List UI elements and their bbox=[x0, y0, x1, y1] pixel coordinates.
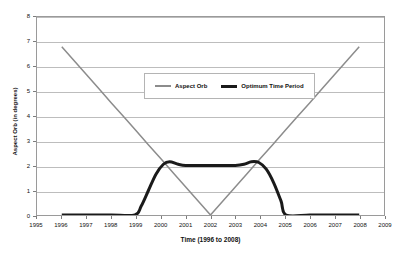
thin-gray-line-icon bbox=[155, 85, 171, 87]
x-tick-label: 2005 bbox=[279, 222, 292, 228]
x-tick-mark bbox=[211, 216, 212, 219]
chart-legend: Aspect Orb Optimum Time Period bbox=[144, 73, 315, 99]
legend-label-optimum-time-period: Optimum Time Period bbox=[241, 83, 303, 89]
x-tick-mark bbox=[335, 216, 336, 219]
plot-svg bbox=[37, 17, 384, 215]
y-tick-label: 2 bbox=[27, 163, 30, 169]
y-tick-label: 7 bbox=[27, 38, 30, 44]
x-tick-mark bbox=[61, 216, 62, 219]
y-tick-label: 0 bbox=[27, 213, 30, 219]
x-tick-label: 2007 bbox=[328, 222, 341, 228]
legend-label-aspect-orb: Aspect Orb bbox=[175, 83, 207, 89]
x-tick-label: 2001 bbox=[179, 222, 192, 228]
y-tick-label: 5 bbox=[27, 88, 30, 94]
x-tick-label: 1997 bbox=[79, 222, 92, 228]
chart-container: 012345678 Aspect Orb (in degrees) 199519… bbox=[0, 0, 414, 254]
x-tick-label: 1995 bbox=[29, 222, 42, 228]
y-axis-title: Aspect Orb (in degrees) bbox=[12, 47, 19, 197]
series-line-aspect-orb bbox=[62, 47, 359, 215]
y-tick-label: 4 bbox=[27, 113, 30, 119]
x-tick-mark bbox=[385, 216, 386, 219]
x-tick-mark bbox=[86, 216, 87, 219]
legend-entry-optimum-time-period: Optimum Time Period bbox=[221, 83, 303, 89]
x-tick-label: 1999 bbox=[129, 222, 142, 228]
y-tick-label: 1 bbox=[27, 188, 30, 194]
y-tick-label: 3 bbox=[27, 138, 30, 144]
x-tick-label: 2002 bbox=[204, 222, 217, 228]
x-tick-mark bbox=[161, 216, 162, 219]
x-tick-label: 2004 bbox=[254, 222, 267, 228]
legend-entry-aspect-orb: Aspect Orb bbox=[155, 83, 207, 89]
thick-black-line-icon bbox=[221, 85, 237, 88]
x-tick-mark bbox=[310, 216, 311, 219]
x-axis: 1995199619971998199920002001200220032004… bbox=[36, 216, 385, 234]
x-tick-label: 1998 bbox=[104, 222, 117, 228]
x-tick-label: 1996 bbox=[54, 222, 67, 228]
x-tick-label: 2008 bbox=[353, 222, 366, 228]
x-axis-title: Time (1996 to 2008) bbox=[36, 236, 385, 243]
x-tick-label: 2003 bbox=[229, 222, 242, 228]
series-line-optimum-time-period bbox=[62, 162, 359, 215]
x-tick-mark bbox=[186, 216, 187, 219]
x-tick-mark bbox=[235, 216, 236, 219]
plot-area bbox=[36, 16, 385, 216]
x-tick-mark bbox=[111, 216, 112, 219]
x-tick-label: 2006 bbox=[304, 222, 317, 228]
y-tick-label: 8 bbox=[27, 13, 30, 19]
x-tick-label: 2000 bbox=[154, 222, 167, 228]
y-axis-title-wrapper: Aspect Orb (in degrees) bbox=[0, 40, 14, 180]
x-tick-mark bbox=[36, 216, 37, 219]
y-tick-label: 6 bbox=[27, 63, 30, 69]
x-tick-mark bbox=[260, 216, 261, 219]
x-tick-mark bbox=[285, 216, 286, 219]
x-tick-mark bbox=[136, 216, 137, 219]
x-tick-mark bbox=[360, 216, 361, 219]
x-tick-label: 2009 bbox=[378, 222, 391, 228]
